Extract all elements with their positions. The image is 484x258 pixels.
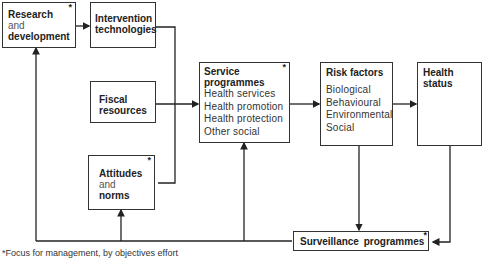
- footnote: *Focus for management, by objectives eff…: [2, 248, 178, 258]
- focus-star-icon: *: [68, 2, 72, 12]
- surveillance-programmes-box: Surveillance programmes *: [293, 231, 429, 251]
- box-item: Health services: [204, 88, 289, 101]
- focus-star-icon: *: [147, 155, 151, 165]
- box-item: Social: [326, 122, 392, 135]
- risk-factors-box: Risk factors Biological Behavioural Envi…: [320, 62, 393, 146]
- box-title: Intervention technologies: [95, 13, 155, 35]
- box-title: norms: [99, 190, 154, 201]
- box-title: Attitudes: [99, 168, 154, 179]
- box-item: Health protection: [204, 113, 289, 126]
- health-status-box: Health status: [417, 62, 482, 146]
- fiscal-resources-box: Fiscal resources: [90, 81, 156, 123]
- focus-star-icon: *: [282, 62, 286, 72]
- box-title: Service programmes: [204, 66, 264, 88]
- box-item: Biological: [326, 84, 392, 97]
- box-item: Environmental: [326, 109, 392, 122]
- attitudes-norms-box: * Attitudes and norms: [88, 155, 155, 210]
- box-title: Fiscal resources: [99, 94, 154, 116]
- box-title: Health status: [423, 67, 463, 89]
- focus-star-icon: *: [423, 230, 427, 240]
- box-connector-word: and: [8, 20, 75, 31]
- box-connector-word: and: [99, 179, 154, 190]
- box-title: Surveillance programmes: [300, 236, 428, 247]
- box-title: Research: [8, 9, 75, 20]
- box-title: Risk factors: [326, 67, 392, 78]
- research-development-box: * Research and development: [2, 2, 76, 48]
- box-title: development: [8, 31, 75, 42]
- box-item: Other social: [204, 126, 289, 139]
- intervention-technologies-box: Intervention technologies: [90, 2, 156, 48]
- box-item: Behavioural: [326, 97, 392, 110]
- box-item: Health promotion: [204, 101, 289, 114]
- service-programmes-box: * Service programmes Health services Hea…: [199, 62, 290, 143]
